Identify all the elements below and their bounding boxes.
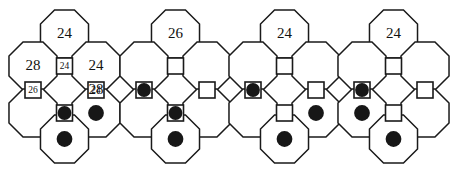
token-dot-oct-right-lower: [308, 105, 324, 121]
token-dot-oct-left-lower: [354, 105, 370, 121]
token-dot-oct-bottom: [168, 131, 184, 147]
square-cell-sq-lower-center: [277, 105, 293, 121]
token-dot-sq-mid-left: [137, 83, 151, 97]
token-dot-oct-bottom: [386, 131, 402, 147]
square-cell-sq-upper-center: [386, 58, 402, 74]
square-cell-sq-mid-right: [417, 82, 433, 98]
figure-1-labeled: 24282424262428: [8, 0, 121, 170]
cell-label-oct-top: 26: [168, 25, 184, 41]
token-dot-oct-bottom: [277, 131, 293, 147]
token-dot-sq-lower-center: [169, 106, 183, 120]
token-dot-sq-mid-left: [246, 83, 260, 97]
token-dot-sq-mid-left: [355, 83, 369, 97]
square-cell-sq-upper-center: [168, 58, 184, 74]
square-cell-sq-lower-center: [386, 105, 402, 121]
cell-label-oct-top: 24: [277, 25, 293, 41]
token-dot-sq-lower-center: [58, 106, 72, 120]
cell-label-sq-upper-center: 24: [60, 61, 70, 71]
cell-label-oct-left: 28: [26, 57, 41, 73]
square-cell-sq-mid-right: [308, 82, 324, 98]
cell-label-sq-mid-left: 26: [28, 85, 38, 95]
figure-4: 24: [337, 0, 450, 170]
figure-strip: 24282424262428262424: [0, 0, 453, 170]
cell-label-oct-top: 24: [386, 25, 402, 41]
token-dot-oct-right-lower: [88, 105, 104, 121]
figure-2: 26: [119, 0, 232, 170]
token-dot-oct-bottom: [57, 131, 73, 147]
cell-label-oct-top: 24: [57, 25, 73, 41]
cell-label-oct-right-lower: 28: [89, 81, 104, 97]
figure-3: 24: [228, 0, 341, 170]
cell-label-oct-right: 24: [89, 57, 105, 73]
square-cell-sq-upper-center: [277, 58, 293, 74]
square-cell-sq-mid-right: [199, 82, 215, 98]
